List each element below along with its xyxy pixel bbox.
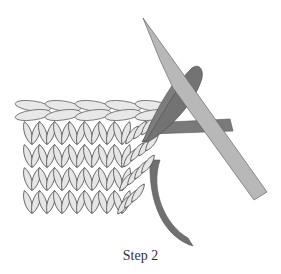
figure-caption: Step 2	[0, 248, 281, 264]
knitting-step-illustration: Step 2	[0, 0, 281, 274]
knitted-fabric	[21, 111, 164, 215]
working-yarn	[150, 160, 193, 246]
chain-link	[14, 108, 51, 123]
knitting-diagram	[0, 0, 281, 274]
bind-off-chain	[14, 99, 171, 123]
